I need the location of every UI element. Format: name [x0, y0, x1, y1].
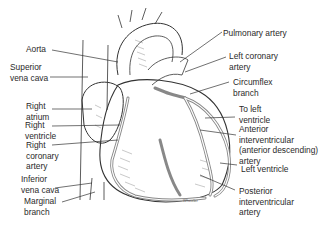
label-superior-vena-cava: Superiorvena cava	[10, 62, 48, 83]
artist-signature: Wheeler	[183, 196, 198, 207]
label-aorta: Aorta	[26, 44, 46, 55]
label-inferior-vena-cava: Inferiorvena cava	[21, 174, 59, 195]
label-left-ventricle: Left ventricle	[241, 164, 288, 175]
label-right-atrium: Rightatrium	[26, 101, 49, 122]
label-anterior-interventricular-artery: Anteriorinterventricular(anterior descen…	[239, 124, 318, 166]
label-pulmonary-artery: Pulmonary artery	[223, 28, 287, 39]
label-right-coronary-artery: Rightcoronaryartery	[26, 140, 59, 172]
label-right-ventricle: Rightventricle	[25, 120, 56, 141]
label-left-coronary-artery: Left coronaryartery	[229, 51, 278, 72]
label-posterior-interventricular-artery: Posteriorinterventricularartery	[239, 186, 294, 218]
label-marginal-branch: Marginalbranch	[24, 196, 56, 217]
label-circumflex-branch: Circumflexbranch	[233, 77, 273, 98]
label-to-left-ventricle: To leftventricle	[239, 104, 270, 125]
